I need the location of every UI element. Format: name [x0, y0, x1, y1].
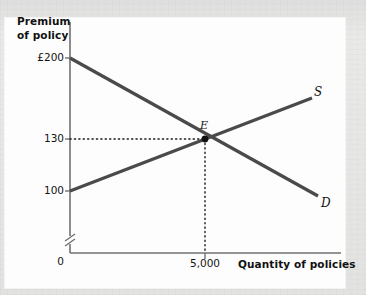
demand-curve-label: D — [321, 196, 331, 210]
y-axis-title: Premium of policy — [17, 15, 71, 42]
y-axis-tick-label-130: 130 — [8, 132, 64, 144]
y-axis-title-line-2: of policy — [17, 29, 71, 43]
supply-curve — [70, 98, 312, 191]
y-axis-tick-label-100: 100 — [8, 184, 64, 196]
y-axis-title-line-1: Premium — [17, 15, 71, 29]
equilibrium-point-marker — [202, 136, 209, 143]
y-axis-tick-label-200: £200 — [8, 51, 64, 63]
x-axis-tick-label-0: 0 — [8, 255, 64, 267]
equilibrium-point-label: E — [200, 119, 208, 132]
x-axis-tick-label-5000: 5,000 — [183, 257, 227, 269]
supply-curve-label: S — [314, 85, 322, 99]
x-axis-title: Quantity of policies — [238, 258, 356, 270]
supply-demand-chart — [0, 0, 366, 295]
